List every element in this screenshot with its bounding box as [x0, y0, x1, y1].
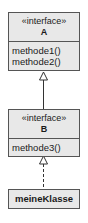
interface-b-stereotype: «interface» [9, 113, 79, 124]
interface-a-operations: methode1() methode2() [9, 42, 79, 70]
class-meineklasse-name: meineKlasse [15, 193, 73, 204]
operation-methode2: methode2() [12, 56, 76, 67]
realization-arrowhead-icon [40, 156, 48, 164]
interface-b-name: B [9, 124, 79, 135]
generalization-arrowhead-icon [40, 72, 48, 80]
interface-b-box[interactable]: «interface» B methode3() [8, 109, 80, 157]
interface-a-name: A [9, 27, 79, 38]
operation-methode1: methode1() [12, 45, 76, 56]
interface-b-header: «interface» B [9, 110, 79, 139]
interface-b-operations: methode3() [9, 139, 79, 156]
class-meineklasse-box[interactable]: meineKlasse [8, 189, 80, 209]
interface-a-stereotype: «interface» [9, 16, 79, 27]
interface-a-box[interactable]: «interface» A methode1() methode2() [8, 12, 80, 71]
interface-a-header: «interface» A [9, 13, 79, 42]
operation-methode3: methode3() [12, 142, 76, 153]
